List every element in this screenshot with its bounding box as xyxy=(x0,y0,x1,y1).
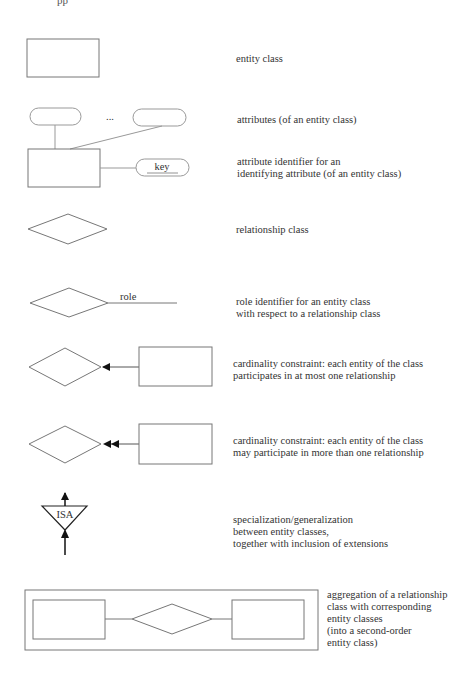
legend-label-entity-class: entity class xyxy=(236,53,283,65)
isa-text: ISA xyxy=(57,509,74,520)
legend-label-attributes: attributes (of an entity class) xyxy=(237,114,357,126)
ellipsis-text: ... xyxy=(106,111,114,122)
role-text: role xyxy=(120,291,137,302)
cardinality-one-symbol xyxy=(29,347,212,386)
entity-class-symbol xyxy=(27,39,99,77)
attributes-symbol: ... xyxy=(30,108,186,149)
legend-label-cardinality-one: cardinality constraint: each entity of t… xyxy=(233,358,423,382)
cardinality-many-symbol xyxy=(29,424,212,464)
er-notation-legend-diagram: ... key role ISA xyxy=(0,0,468,680)
key-text: key xyxy=(154,161,170,172)
legend-label-key-attribute: attribute identifier for an identifying … xyxy=(237,156,401,180)
relationship-class-symbol xyxy=(28,214,107,244)
isa-symbol: ISA xyxy=(42,493,87,555)
key-attribute-symbol: key xyxy=(28,149,189,187)
aggregation-symbol xyxy=(25,590,318,650)
legend-label-cardinality-many: cardinality constraint: each entity of t… xyxy=(233,435,424,459)
legend-label-isa: specialization/generalization between en… xyxy=(233,514,388,550)
legend-label-aggregation: aggregation of a relationship class with… xyxy=(327,589,447,649)
role-symbol: role xyxy=(30,288,177,317)
legend-label-relationship-class: relationship class xyxy=(236,224,309,236)
legend-label-role: role identifier for an entity class with… xyxy=(236,296,380,320)
